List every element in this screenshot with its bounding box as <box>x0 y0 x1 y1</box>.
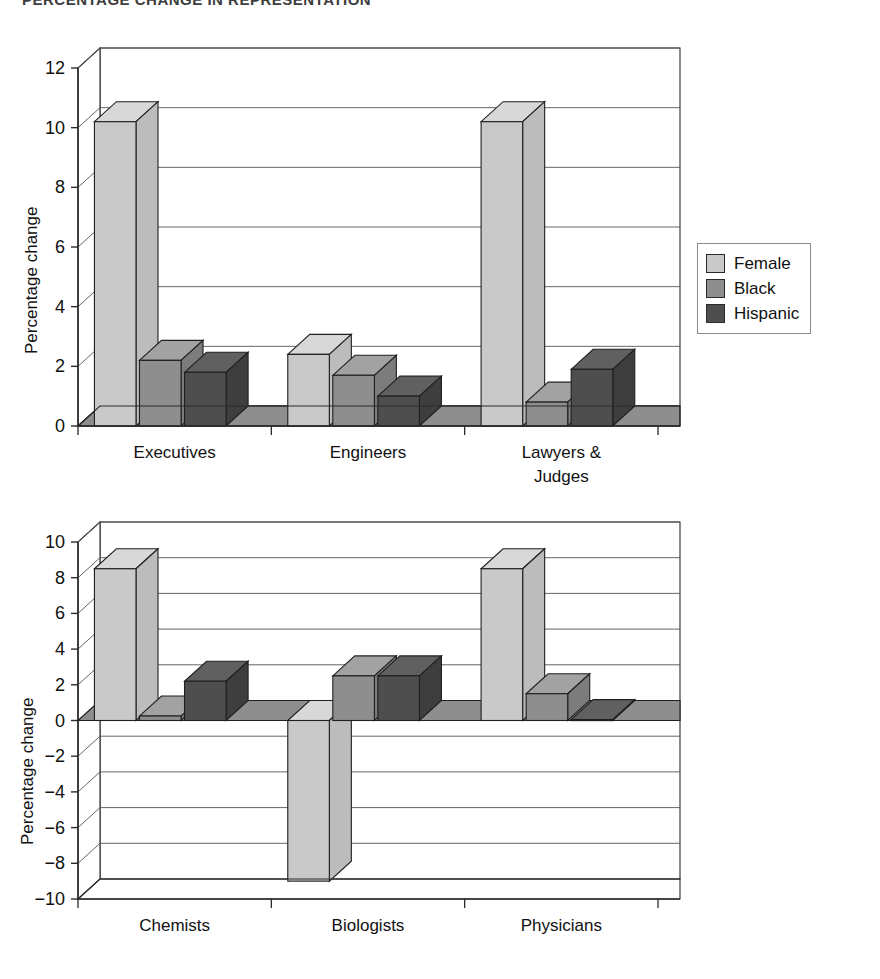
x-tick-label: Physicians <box>521 916 602 935</box>
y-tick-label: 10 <box>45 532 65 552</box>
legend-item-hispanic: Hispanic <box>706 301 799 326</box>
y-tick-label: 6 <box>55 603 65 623</box>
bar-hispanic <box>185 352 249 426</box>
bar-female <box>288 701 352 882</box>
x-tick-label: Engineers <box>330 443 407 462</box>
y-tick-label: 0 <box>55 711 65 731</box>
y-tick-label: 12 <box>45 58 65 78</box>
legend-swatch-black <box>706 279 725 298</box>
x-tick-label: Judges <box>534 467 589 486</box>
y-tick-label: 2 <box>55 675 65 695</box>
chart-panel-top: Percentage change 024681012ExecutivesEng… <box>0 24 880 494</box>
y-tick-label: 8 <box>55 568 65 588</box>
y-tick-label: 6 <box>55 237 65 257</box>
legend-item-black: Black <box>706 276 799 301</box>
legend-swatch-female <box>706 254 725 273</box>
legend-label-female: Female <box>734 255 791 272</box>
legend-top: Female Black Hispanic <box>697 243 811 334</box>
clipped-header-text: PERCENTAGE CHANGE IN REPRESENTATION <box>22 0 371 7</box>
chart-bottom-svg: 1086420−2−4−6−8−10ChemistsBiologistsPhys… <box>0 500 690 979</box>
y-tick-label: 10 <box>45 118 65 138</box>
chart-panel-bottom: Percentage change 1086420−2−4−6−8−10Chem… <box>0 500 880 979</box>
y-tick-label: −10 <box>34 889 65 909</box>
bar-female <box>481 102 545 426</box>
bar-hispanic <box>571 349 635 426</box>
x-tick-label: Executives <box>134 443 216 462</box>
bar-female <box>94 549 158 721</box>
legend-item-female: Female <box>706 251 799 276</box>
legend-label-hispanic: Hispanic <box>734 305 799 322</box>
clipped-page-header: PERCENTAGE CHANGE IN REPRESENTATION <box>0 0 880 7</box>
y-tick-label: 4 <box>55 297 65 317</box>
y-tick-label: −4 <box>44 782 65 802</box>
y-tick-label: −2 <box>44 746 65 766</box>
legend-label-black: Black <box>734 280 776 297</box>
legend-swatch-hispanic <box>706 304 725 323</box>
y-tick-label: −6 <box>44 818 65 838</box>
x-tick-label: Chemists <box>139 916 210 935</box>
x-tick-label: Biologists <box>332 916 405 935</box>
plot-area-top: 024681012ExecutivesEngineersLawyers &Jud… <box>0 24 690 494</box>
y-tick-label: 0 <box>55 416 65 436</box>
y-tick-label: 8 <box>55 177 65 197</box>
y-tick-label: 4 <box>55 639 65 659</box>
plot-area-bottom: 1086420−2−4−6−8−10ChemistsBiologistsPhys… <box>0 500 690 979</box>
y-tick-label: 2 <box>55 356 65 376</box>
x-tick-label: Lawyers & <box>522 443 602 462</box>
chart-top-svg: 024681012ExecutivesEngineersLawyers &Jud… <box>0 24 690 494</box>
y-tick-label: −8 <box>44 853 65 873</box>
